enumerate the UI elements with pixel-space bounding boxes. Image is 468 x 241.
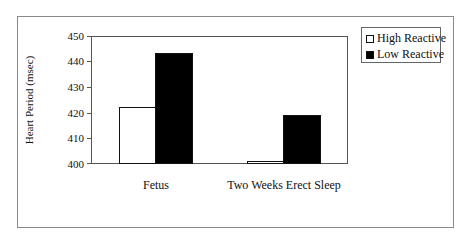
legend-swatch-white <box>366 35 374 43</box>
plot-area <box>91 36 348 164</box>
y-tick-420: 420 <box>58 108 84 119</box>
bar-fetus-high-reactive <box>119 107 156 164</box>
bar-fetus-low-reactive <box>155 53 193 164</box>
y-tick-440: 440 <box>58 56 84 67</box>
legend-item-high-reactive: High Reactive <box>366 31 446 46</box>
y-tick-410: 410 <box>58 133 84 144</box>
x-category-fetus: Fetus <box>143 178 169 193</box>
legend-label: Low Reactive <box>377 47 444 62</box>
y-axis-label: Heart Period (msec) <box>23 56 35 145</box>
bar-twoweeks-low-reactive <box>283 115 321 164</box>
y-tick-430: 430 <box>58 82 84 93</box>
legend-swatch-black <box>366 51 374 59</box>
legend-label: High Reactive <box>377 31 446 46</box>
bar-twoweeks-high-reactive <box>247 161 284 164</box>
y-tick-400: 400 <box>58 159 84 170</box>
legend-item-low-reactive: Low Reactive <box>366 47 444 62</box>
y-tick-450: 450 <box>58 31 84 42</box>
legend: High Reactive Low Reactive <box>361 27 441 63</box>
x-category-two-weeks: Two Weeks Erect Sleep <box>227 178 341 193</box>
